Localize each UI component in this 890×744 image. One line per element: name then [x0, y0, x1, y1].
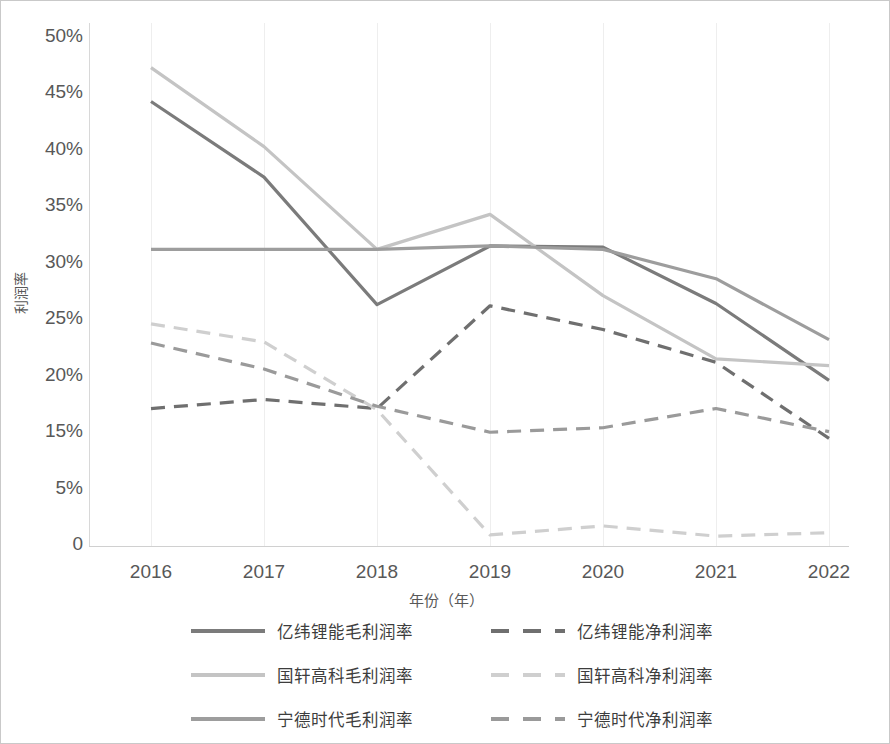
legend-item[interactable]: 亿纬锂能毛利润率	[191, 616, 413, 646]
legend-label: 亿纬锂能净利润率	[577, 619, 713, 643]
gridline-2016	[151, 23, 152, 546]
x-tick-label: 2021	[671, 561, 761, 583]
legend-swatch-icon	[191, 673, 265, 677]
y-tick-label: 5%	[23, 478, 83, 497]
legend-label: 国轩高科净利润率	[577, 663, 713, 687]
x-tick-label: 2018	[332, 561, 422, 583]
legend-label: 宁德时代毛利润率	[277, 707, 413, 731]
x-tick-label: 2022	[784, 561, 874, 583]
x-tick-label: 2017	[219, 561, 309, 583]
chart-legend: 亿纬锂能毛利润率亿纬锂能净利润率国轩高科毛利润率国轩高科净利润率宁德时代毛利润率…	[191, 616, 711, 738]
y-tick-label: 25%	[23, 308, 83, 327]
y-tick-label: 15%	[23, 421, 83, 440]
y-tick-label: 0	[23, 534, 83, 553]
x-axis-line	[89, 546, 849, 547]
y-tick-label: 20%	[23, 365, 83, 384]
legend-swatch-icon	[491, 717, 565, 721]
y-axis-title: 利润率	[10, 258, 30, 328]
x-tick-label: 2016	[106, 561, 196, 583]
gridline-2021	[716, 23, 717, 546]
legend-item[interactable]: 宁德时代净利润率	[491, 704, 713, 734]
legend-label: 宁德时代净利润率	[577, 707, 713, 731]
gridline-2017	[264, 23, 265, 546]
gridline-2020	[603, 23, 604, 546]
x-tick-label: 2020	[558, 561, 648, 583]
gridline-2019	[490, 23, 491, 546]
legend-swatch-icon	[191, 629, 265, 633]
legend-label: 国轩高科毛利润率	[277, 663, 413, 687]
legend-item[interactable]: 宁德时代毛利润率	[191, 704, 413, 734]
legend-swatch-icon	[191, 717, 265, 721]
x-tick-label: 2019	[445, 561, 535, 583]
gridline-2022	[829, 23, 830, 546]
y-tick-label: 40%	[23, 139, 83, 158]
legend-item[interactable]: 国轩高科净利润率	[491, 660, 713, 690]
legend-label: 亿纬锂能毛利润率	[277, 619, 413, 643]
y-tick-label: 35%	[23, 195, 83, 214]
chart-figure: 50%45%40%35%30%25%20%15%5%0 利润率 20162017…	[0, 0, 890, 744]
x-axis-title: 年份（年）	[1, 589, 890, 610]
legend-item[interactable]: 亿纬锂能净利润率	[491, 616, 713, 646]
legend-item[interactable]: 国轩高科毛利润率	[191, 660, 413, 690]
y-axis-line	[89, 23, 90, 546]
gridline-2018	[377, 23, 378, 546]
y-tick-label: 45%	[23, 82, 83, 101]
y-axis-tick-labels: 50%45%40%35%30%25%20%15%5%0	[19, 1, 83, 744]
y-tick-label: 30%	[23, 252, 83, 271]
y-tick-label: 50%	[23, 26, 83, 45]
legend-swatch-icon	[491, 629, 565, 633]
legend-swatch-icon	[491, 673, 565, 677]
